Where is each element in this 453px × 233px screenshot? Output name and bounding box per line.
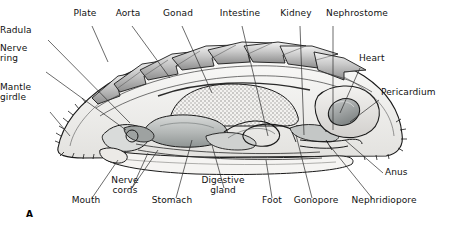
label-nerve-cords-line-1: cords: [80, 185, 170, 195]
label-stomach-line-0: Stomach: [127, 195, 217, 205]
label-mantle-girdle-line-0: Mantle: [0, 82, 8, 92]
label-radula: Radula: [0, 25, 8, 35]
label-mouth: Mouth: [41, 195, 131, 205]
label-mouth-line-0: Mouth: [41, 195, 131, 205]
label-anus-line-0: Anus: [385, 167, 408, 177]
label-nephridiopore-line-0: Nephridiopore: [339, 195, 429, 205]
label-anus: Anus: [385, 167, 408, 177]
label-pericardium-line-0: Pericardium: [381, 87, 436, 97]
label-nerve-ring: Nervering: [0, 43, 8, 63]
label-nerve-ring-line-0: Nerve: [0, 43, 8, 53]
label-digestive-gland-line-0: Digestive: [178, 175, 268, 185]
label-digestive-gland: Digestivegland: [178, 175, 268, 195]
label-radula-line-0: Radula: [0, 25, 8, 35]
leader-line-plate: [92, 26, 108, 62]
label-mantle-girdle-line-1: girdle: [0, 92, 8, 102]
label-nephrostome: Nephrostome: [312, 8, 402, 18]
label-nephridiopore: Nephridiopore: [339, 195, 429, 205]
label-nephrostome-line-0: Nephrostome: [312, 8, 402, 18]
label-nerve-cords: Nervecords: [80, 175, 170, 195]
label-stomach: Stomach: [127, 195, 217, 205]
label-heart-line-0: Heart: [359, 53, 385, 63]
label-nerve-cords-line-0: Nerve: [80, 175, 170, 185]
pericardium-chamber: [315, 86, 379, 138]
label-nerve-ring-line-1: ring: [0, 53, 8, 63]
label-digestive-gland-line-1: gland: [178, 185, 268, 195]
figure-chiton-anatomy: RadulaNerveringMantlegirdlePlateAortaGon…: [0, 0, 453, 233]
label-mantle-girdle: Mantlegirdle: [0, 82, 8, 102]
figure-marker: A: [26, 209, 33, 219]
label-pericardium: Pericardium: [381, 87, 436, 97]
label-heart: Heart: [359, 53, 385, 63]
